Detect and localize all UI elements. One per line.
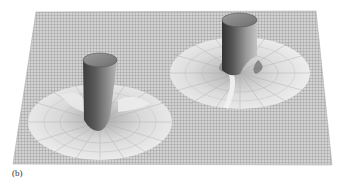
figure-panel: (b) (0, 0, 344, 187)
figure-label: (b) (12, 168, 23, 178)
mesh-surface-illustration (0, 0, 344, 187)
